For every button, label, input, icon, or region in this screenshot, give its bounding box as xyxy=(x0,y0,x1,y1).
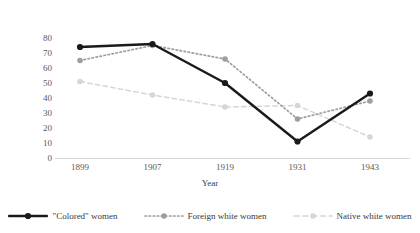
plot-area xyxy=(0,0,420,233)
data-point xyxy=(367,90,373,96)
legend-swatch-icon xyxy=(8,211,48,221)
legend-item[interactable]: Native white women xyxy=(293,211,412,221)
data-point xyxy=(295,103,301,109)
legend-label: Native white women xyxy=(337,211,412,221)
data-point xyxy=(77,79,83,85)
data-point xyxy=(222,104,228,110)
data-point xyxy=(367,134,373,140)
data-point xyxy=(295,116,301,122)
legend-item[interactable]: Foreign white women xyxy=(144,211,267,221)
legend-label: Foreign white women xyxy=(188,211,267,221)
legend-item[interactable]: "Colored" women xyxy=(8,211,117,221)
data-point xyxy=(222,56,228,62)
chart-legend: "Colored" womenForeign white womenNative… xyxy=(0,205,420,227)
data-point xyxy=(149,41,155,47)
data-point xyxy=(77,58,83,64)
data-point xyxy=(294,138,300,144)
data-point xyxy=(150,92,156,98)
legend-swatch-icon xyxy=(293,211,333,221)
line-chart: Percentage of working population in dome… xyxy=(0,0,420,233)
data-point xyxy=(367,98,373,104)
legend-label: "Colored" women xyxy=(52,211,117,221)
legend-swatch-icon xyxy=(144,211,184,221)
data-point xyxy=(222,80,228,86)
data-point xyxy=(77,44,83,50)
